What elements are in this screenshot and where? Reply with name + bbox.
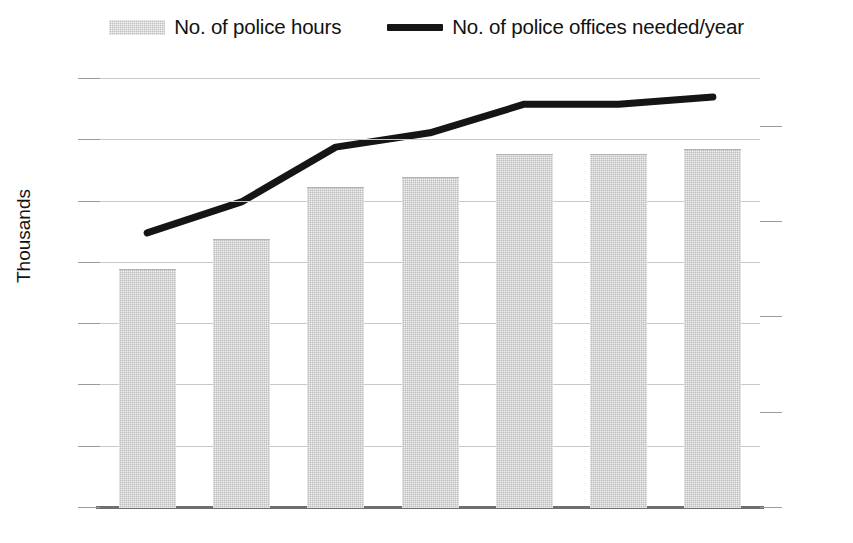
y-axis-title: Thousands	[13, 156, 35, 316]
y-axis-tick-right	[760, 316, 782, 317]
gridline	[100, 139, 760, 140]
gridline	[100, 78, 760, 79]
bar-swatch-icon	[109, 20, 165, 35]
chart-container: No. of police hours No. of police office…	[0, 0, 853, 543]
y-axis-tick-left	[78, 139, 100, 140]
y-axis-tick-right	[760, 412, 782, 413]
legend-item-police-offices: No. of police offices needed/year	[387, 15, 744, 39]
y-axis-tick-right	[760, 507, 782, 508]
legend-label-police-hours: No. of police hours	[174, 15, 341, 39]
bar-2010	[213, 239, 270, 508]
chart-legend: No. of police hours No. of police office…	[0, 10, 853, 44]
bar-2014	[590, 154, 647, 508]
bar-2015	[684, 149, 741, 508]
bar-2012	[402, 177, 459, 508]
y-axis-tick-left	[78, 446, 100, 447]
y-axis-tick-left	[78, 201, 100, 202]
plot-area: 0501001502002503003500204060801001201401…	[100, 78, 760, 507]
y-axis-tick-left	[78, 323, 100, 324]
line-swatch-icon	[387, 24, 443, 31]
bar-2011	[307, 187, 364, 508]
y-axis-tick-left	[78, 384, 100, 385]
y-axis-tick-left	[78, 78, 100, 79]
legend-item-police-hours: No. of police hours	[109, 15, 341, 39]
y-axis-tick-left	[78, 507, 100, 508]
y-axis-tick-right	[760, 126, 782, 127]
bar-2013	[496, 154, 553, 508]
y-axis-tick-left	[78, 262, 100, 263]
legend-label-police-offices: No. of police offices needed/year	[452, 15, 744, 39]
y-axis-tick-right	[760, 221, 782, 222]
bar-2009	[119, 269, 176, 508]
